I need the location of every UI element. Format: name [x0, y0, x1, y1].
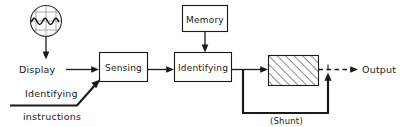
sensing-block: Sensing — [100, 53, 148, 82]
diagram-canvas: Display Sensing Identifying instructions… — [0, 0, 403, 127]
identifying-label: Identifying — [178, 63, 228, 73]
hatched-to-output-dashed-connector — [319, 65, 359, 73]
memory-label: Memory — [186, 15, 224, 25]
identifying-instructions-label-line2: instructions — [23, 111, 81, 122]
identifying-block: Identifying — [175, 53, 232, 82]
identifying-to-hatched-arrow — [232, 66, 269, 73]
block-diagram: Display Sensing Identifying instructions… — [0, 0, 403, 127]
crt-to-display-arrow — [43, 37, 50, 60]
identifying-instructions-label-line1: Identifying — [25, 88, 78, 99]
sensing-label: Sensing — [105, 63, 142, 73]
display-to-sensing-arrow — [66, 66, 99, 73]
memory-block: Memory — [183, 6, 228, 32]
memory-to-identifying-arrow — [202, 32, 209, 53]
shunt-label: (Shunt) — [270, 116, 303, 126]
display-crt-icon — [30, 5, 62, 37]
sensing-to-identifying-arrow — [148, 66, 175, 73]
hatched-block — [269, 56, 319, 86]
output-label: Output — [362, 64, 396, 75]
display-label: Display — [19, 64, 56, 75]
